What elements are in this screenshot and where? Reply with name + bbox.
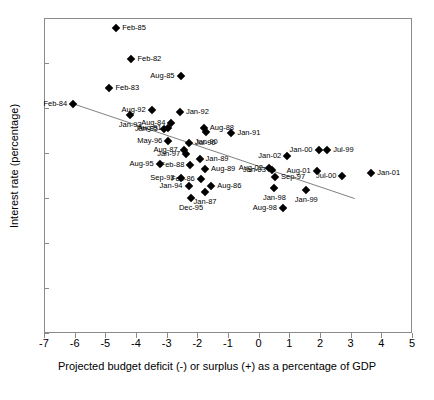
data-point-label: Feb-83 [115,84,139,92]
x-tick-label: -6 [70,338,80,349]
data-point-label: Jan-99 [295,196,318,204]
data-point-label: Aug-89 [211,165,235,173]
plot-area: Feb-85Feb-82Aug-85Feb-83Feb-84Aug-92Jan-… [44,18,412,333]
y-tick-mark [44,18,49,19]
scatter-chart: Feb-85Feb-82Aug-85Feb-83Feb-84Aug-92Jan-… [0,0,434,400]
x-tick-label: -5 [100,338,110,349]
trendline [45,19,413,334]
data-point-label: Jan-00 [290,146,313,154]
data-point-label: Aug-92 [122,106,146,114]
data-point-label: Jan-92 [186,108,209,116]
x-tick-label: 4 [378,338,384,349]
x-tick-label: -3 [162,338,172,349]
data-point-label: Feb-84 [43,100,67,108]
data-point-label: Feb-85 [122,24,146,32]
data-point-label: Jul-99 [333,146,353,154]
y-tick-mark [44,108,49,109]
x-tick-label: 3 [348,338,354,349]
data-point-label: Dec-95 [179,204,203,212]
x-tick-label: -4 [131,338,141,349]
data-point-label: Aug-85 [150,72,174,80]
data-point-label: Jan-98 [263,194,286,202]
data-point-label: Sep-97 [281,173,305,181]
data-point-label: Jan-03 [243,166,266,174]
data-point-label: Feb-82 [137,55,161,63]
data-point-label: Jan-97 [157,150,180,158]
x-axis-label: Projected budget deficit (-) or surplus … [0,360,434,372]
x-tick-label: 1 [286,338,292,349]
data-point-label: Feb-88 [161,161,185,169]
data-point-label: Aug-86 [217,182,241,190]
x-tick-label: 5 [409,338,415,349]
data-point-label: Aug-95 [130,160,154,168]
data-point-label: Aug-98 [253,204,277,212]
data-point-label: Jan-94 [160,182,183,190]
x-tick-label: -7 [39,338,49,349]
data-point-label: Jul-00 [316,172,336,180]
y-tick-mark [44,63,49,64]
y-tick-mark [44,198,49,199]
data-point-label: Jan-01 [377,169,400,177]
y-tick-mark [44,153,49,154]
x-tick-label: -2 [192,338,202,349]
data-point-label: Jan-91 [237,129,260,137]
data-point-label: Jan-02 [258,152,281,160]
y-axis-label: Interest rate (percentage) [8,66,20,266]
data-point-label: Jan-95 [135,125,158,133]
y-tick-mark [44,243,49,244]
data-point-label: Jul-90 [195,139,215,147]
x-tick-label: 2 [317,338,323,349]
x-tick-label: -1 [223,338,233,349]
data-point-label: Jan-89 [206,155,229,163]
x-tick-label: 0 [256,338,262,349]
y-tick-mark [44,288,49,289]
